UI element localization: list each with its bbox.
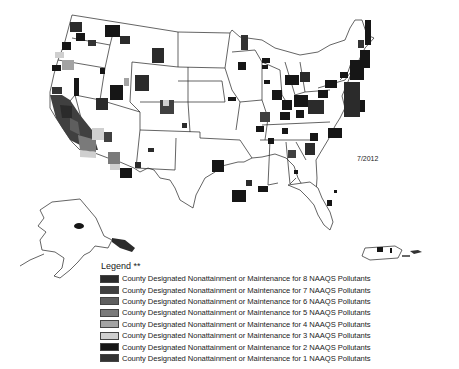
puerto-rico-nonattainment: [377, 247, 383, 252]
contiguous-us-outline: [50, 15, 374, 208]
legend-swatch: [100, 343, 119, 351]
legend-swatch: [100, 309, 119, 317]
alaska-nonattainment-panhandle: [112, 238, 135, 252]
legend-label: County Designated Nonattainment or Maint…: [122, 297, 371, 306]
legend-item-1-pollutant: County Designated Nonattainment or Maint…: [100, 353, 371, 364]
virgin-islands: [410, 250, 422, 254]
legend-item-4-pollutants: County Designated Nonattainment or Maint…: [100, 319, 371, 330]
legend-label: County Designated Nonattainment or Maint…: [122, 308, 371, 317]
aleutian-islands: [20, 254, 44, 266]
legend-item-6-pollutants: County Designated Nonattainment or Maint…: [100, 296, 371, 307]
legend-label: County Designated Nonattainment or Maint…: [122, 286, 371, 295]
alaska-nonattainment-fairbanks: [74, 223, 84, 229]
legend-label: County Designated Nonattainment or Maint…: [122, 354, 371, 363]
legend-swatch: [100, 297, 119, 305]
legend: Legend ** County Designated Nonattainmen…: [100, 261, 371, 364]
legend-item-8-pollutants: County Designated Nonattainment or Maint…: [100, 273, 371, 284]
legend-title: Legend **: [101, 261, 371, 271]
legend-item-3-pollutants: County Designated Nonattainment or Maint…: [100, 330, 371, 341]
legend-swatch: [100, 354, 119, 362]
legend-label: County Designated Nonattainment or Maint…: [122, 274, 371, 283]
legend-label: County Designated Nonattainment or Maint…: [122, 331, 371, 340]
legend-label: County Designated Nonattainment or Maint…: [122, 320, 371, 329]
florida-outline: [288, 182, 333, 230]
legend-swatch: [100, 320, 119, 328]
puerto-rico-nonattainment-2: [390, 248, 392, 253]
map-date-label: 7/2012: [357, 155, 378, 162]
legend-swatch: [100, 332, 119, 340]
legend-item-7-pollutants: County Designated Nonattainment or Maint…: [100, 284, 371, 295]
legend-label: County Designated Nonattainment or Maint…: [122, 343, 371, 352]
legend-item-5-pollutants: County Designated Nonattainment or Maint…: [100, 307, 371, 318]
legend-swatch: [100, 275, 119, 283]
legend-item-2-pollutants: County Designated Nonattainment or Maint…: [100, 341, 371, 352]
legend-swatch: [100, 286, 119, 294]
